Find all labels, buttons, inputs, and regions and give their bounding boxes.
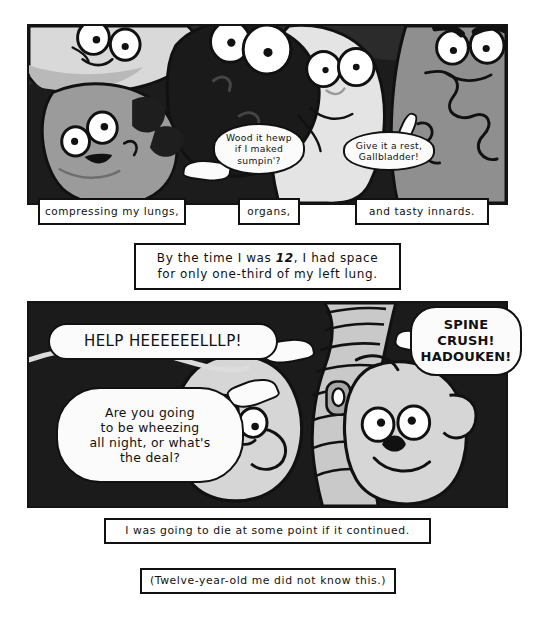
balloon-spine-text: SPINE CRUSH! HADOUKEN! [421, 317, 512, 365]
gallbladder-pupil-left [71, 138, 78, 145]
liver-pupil-left [227, 39, 235, 47]
balloon-stomach: Give it a rest, Gallbladder! [343, 131, 435, 171]
balloon-wheezing: Are you going to be wheezing all night, … [56, 387, 244, 483]
caption-tasty-innards: and tasty innards. [355, 198, 489, 225]
balloon-stomach-text: Give it a rest, Gallbladder! [356, 140, 422, 162]
balloon-line: CRUSH! [421, 333, 512, 349]
caption-twelve-year-old: (Twelve-year-old me did not know this.) [140, 568, 396, 594]
balloon-line: SPINE [421, 317, 512, 333]
balloon-help: HELP HEEEEEELLLP! [48, 323, 278, 360]
caption-by-the-time: By the time I was 12, I had space for on… [134, 243, 401, 290]
caption-text: organs, [247, 205, 290, 219]
lung-left-pupil-2 [251, 423, 259, 430]
spine-foramen [332, 388, 344, 406]
intestines-pupil-left [450, 47, 457, 54]
balloon-line: the deal? [89, 450, 210, 465]
intestines-pupil-right [483, 45, 490, 52]
stomach-pupil-right [353, 64, 360, 71]
caption-emphasis: 12 [276, 251, 294, 265]
balloon-line: all night, or what's [89, 435, 210, 450]
balloon-spine-crush: SPINE CRUSH! HADOUKEN! [410, 306, 522, 376]
lung-right-pupil-2 [408, 417, 416, 425]
balloon-line: Are you going [89, 405, 210, 420]
comic-page: Wood it hewp if I maked sumpin'? Give it… [0, 0, 535, 617]
balloon-gallbladder-text: Wood it hewp if I maked sumpin'? [226, 132, 292, 166]
balloon-line: to be wheezing [89, 420, 210, 435]
liver-pupil-right [263, 48, 272, 57]
caption-line-2: for only one-third of my left lung. [157, 267, 378, 283]
caption-text: By the time I was 12, I had space for on… [157, 251, 378, 283]
balloon-line: HADOUKEN! [421, 349, 512, 365]
caption-going-to-die: I was going to die at some point if it c… [104, 518, 431, 544]
caption-organs: organs, [238, 198, 300, 225]
balloon-line: sumpin'? [226, 155, 292, 166]
caption-compressing-lungs: compressing my lungs, [38, 198, 186, 225]
lung-pupil-left [93, 36, 101, 43]
caption-line-part: , I had space [294, 251, 378, 265]
balloon-gallbladder: Wood it hewp if I maked sumpin'? [213, 123, 305, 175]
balloon-line: Wood it hewp [226, 132, 292, 143]
stomach-pupil-left [322, 67, 328, 73]
comic-panel-1 [27, 24, 508, 205]
lung-pupil-right [122, 43, 129, 50]
caption-line-1: By the time I was 12, I had space [157, 251, 378, 267]
caption-text: I was going to die at some point if it c… [125, 524, 410, 538]
caption-text: and tasty innards. [369, 205, 475, 219]
caption-text: (Twelve-year-old me did not know this.) [150, 574, 386, 588]
gallbladder-pupil-right [101, 123, 109, 130]
caption-text: compressing my lungs, [45, 205, 179, 219]
balloon-line: Give it a rest, [356, 140, 422, 151]
balloon-help-text: HELP HEEEEEELLLP! [84, 332, 242, 350]
lung-right-pupil-1 [377, 419, 385, 427]
panel-1-artwork [29, 26, 506, 203]
balloon-line: if I maked [226, 143, 292, 154]
caption-line-part: By the time I was [157, 251, 276, 265]
balloon-line: Gallbladder! [356, 151, 422, 162]
balloon-wheezing-text: Are you going to be wheezing all night, … [89, 405, 210, 466]
